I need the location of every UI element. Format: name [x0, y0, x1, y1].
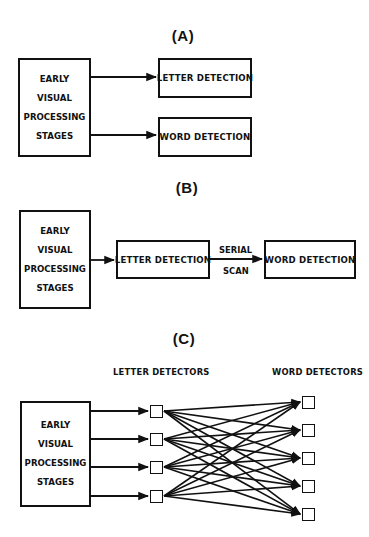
word-detectors-label: WORD DETECTORS: [272, 367, 363, 377]
box-line: VISUAL: [38, 435, 73, 454]
box-label: WORD DETECTION: [160, 132, 251, 142]
panel-a-early-visual-processing-box: EARLY VISUAL PROCESSING STAGES: [18, 58, 91, 157]
word-detector-node: [302, 396, 315, 409]
box-line: STAGES: [37, 473, 74, 492]
box-line: EARLY: [40, 222, 70, 241]
box-line: PROCESSING: [24, 108, 86, 127]
panel-a-letter-detection-box: LETTER DETECTION: [158, 58, 252, 98]
panel-c-network: [164, 402, 300, 514]
letter-detector-node: [150, 490, 163, 503]
word-detector-node: [302, 452, 315, 465]
panel-a-arrows: [91, 77, 156, 135]
panel-c-input-arrows: [91, 411, 148, 496]
box-line: STAGES: [36, 127, 73, 146]
letter-detector-node: [150, 433, 163, 446]
box-line: EARLY: [40, 70, 70, 89]
box-label: WORD DETECTION: [265, 255, 356, 265]
letter-detectors-label: LETTER DETECTORS: [113, 367, 210, 377]
panel-c-early-visual-processing-box: EARLY VISUAL PROCESSING STAGES: [20, 401, 91, 507]
box-line: PROCESSING: [24, 260, 86, 279]
box-line: EARLY: [41, 416, 71, 435]
box-line: STAGES: [36, 279, 73, 298]
word-detector-node: [302, 480, 315, 493]
box-line: VISUAL: [38, 241, 73, 260]
panel-b-letter-detection-box: LETTER DETECTION: [116, 240, 210, 279]
word-detector-node: [302, 508, 315, 521]
scan-label: SCAN: [223, 266, 249, 276]
serial-label: SERIAL: [219, 245, 252, 255]
panel-a-title: (A): [153, 27, 213, 44]
box-label: LETTER DETECTION: [157, 73, 254, 83]
box-label: LETTER DETECTION: [115, 255, 212, 265]
panel-b-word-detection-box: WORD DETECTION: [264, 240, 356, 279]
word-detector-node: [302, 424, 315, 437]
panel-b-early-visual-processing-box: EARLY VISUAL PROCESSING STAGES: [19, 210, 91, 309]
box-line: PROCESSING: [25, 454, 87, 473]
letter-detector-node: [150, 461, 163, 474]
box-line: VISUAL: [37, 89, 72, 108]
panel-b-title: (B): [157, 179, 217, 196]
panel-c-title: (C): [154, 330, 214, 347]
letter-detector-node: [150, 405, 163, 418]
panel-a-word-detection-box: WORD DETECTION: [158, 117, 252, 157]
